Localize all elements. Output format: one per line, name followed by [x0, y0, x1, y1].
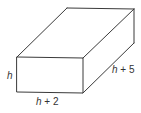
height-variable: h — [7, 70, 13, 81]
top-left-depth-edge — [17, 8, 67, 57]
width-suffix: + 2 — [42, 96, 59, 107]
top-back-edge — [67, 8, 134, 9]
height-label: h — [7, 71, 13, 81]
width-label: h + 2 — [36, 97, 59, 107]
depth-label: h + 5 — [112, 65, 135, 75]
rectangular-prism-diagram — [0, 0, 141, 113]
front-face — [17, 57, 83, 93]
depth-suffix: + 5 — [118, 64, 135, 75]
